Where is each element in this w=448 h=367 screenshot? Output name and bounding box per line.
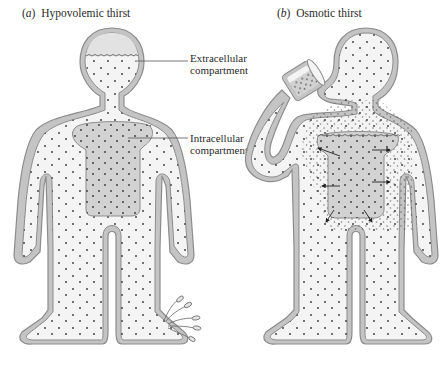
panel-a-body — [14, 28, 201, 344]
thirst-diagram — [0, 0, 448, 367]
panel-b-body — [246, 28, 438, 344]
